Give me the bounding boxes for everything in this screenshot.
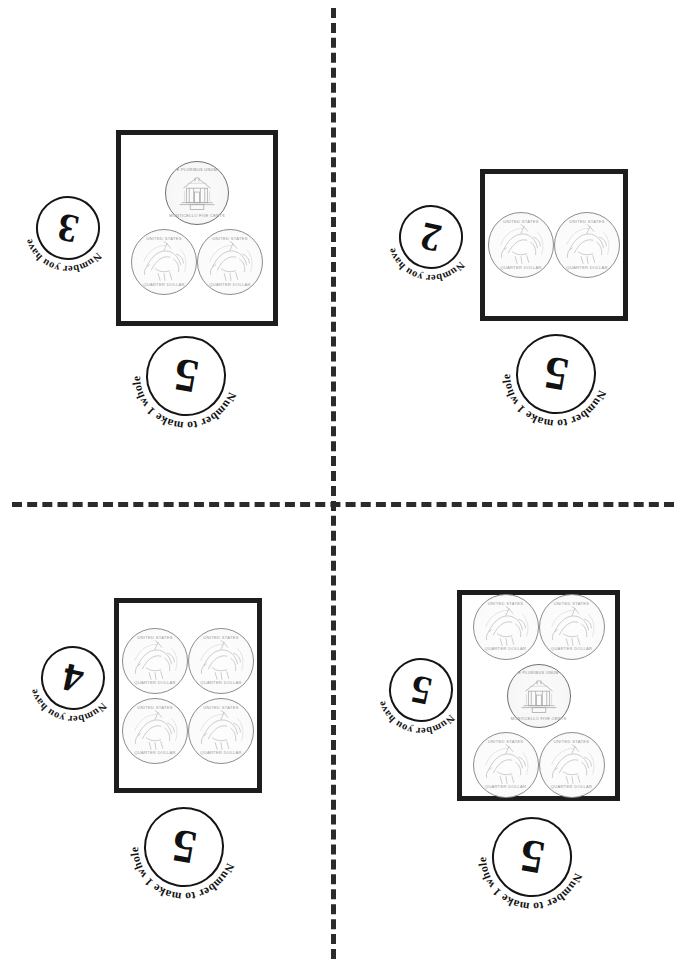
coin-row: UNITED STATESQUARTER DOLLAR UNITED STATE…: [122, 628, 254, 694]
stamp-digit: 5: [140, 330, 233, 423]
stamp-digit: 5: [510, 328, 603, 421]
coin-row: UNITED STATESQUARTER DOLLAR UNITED STATE…: [122, 698, 254, 764]
number-to-make-whole-stamp: Number to make 1 whole 5: [510, 328, 603, 421]
stamp-digit: 2: [393, 199, 469, 275]
quarter-coin: UNITED STATESQUARTER DOLLAR: [473, 594, 539, 660]
number-you-have-stamp: Number you have 5: [383, 652, 459, 728]
stamp-digit: 5: [383, 652, 459, 728]
quarter-coin: UNITED STATESQUARTER DOLLAR: [131, 229, 197, 295]
number-you-have-stamp: Number you have 4: [35, 640, 111, 716]
coin-row: E PLURIBUS UNUMMONTICELLO FIVE CENTS: [165, 161, 229, 225]
coin-box: E PLURIBUS UNUMMONTICELLO FIVE CENTS UNI…: [116, 130, 278, 326]
coin-row: UNITED STATESQUARTER DOLLAR UNITED STATE…: [473, 732, 605, 798]
number-to-make-whole-stamp: Number to make 1 whole 5: [140, 330, 233, 423]
nickel-coin: E PLURIBUS UNUMMONTICELLO FIVE CENTS: [507, 664, 571, 728]
coin-row: E PLURIBUS UNUMMONTICELLO FIVE CENTS: [507, 664, 571, 728]
coin-box: UNITED STATESQUARTER DOLLAR UNITED STATE…: [457, 590, 620, 801]
coin-row: UNITED STATESQUARTER DOLLAR UNITED STATE…: [473, 594, 605, 660]
number-you-have-stamp: Number you have 3: [30, 190, 106, 266]
quarter-coin: UNITED STATESQUARTER DOLLAR: [539, 594, 605, 660]
quarter-coin: UNITED STATESQUARTER DOLLAR: [554, 212, 620, 278]
dashed-cut-line-vertical: [331, 8, 336, 959]
quarter-coin: UNITED STATESQUARTER DOLLAR: [539, 732, 605, 798]
quarter-coin: UNITED STATESQUARTER DOLLAR: [188, 698, 254, 764]
quarter-coin: UNITED STATESQUARTER DOLLAR: [122, 698, 188, 764]
number-to-make-whole-stamp: Number to make 1 whole 5: [138, 801, 231, 894]
quarter-coin: UNITED STATESQUARTER DOLLAR: [122, 628, 188, 694]
quarter-coin: UNITED STATESQUARTER DOLLAR: [197, 229, 263, 295]
dashed-cut-line-horizontal: [12, 502, 674, 507]
stamp-digit: 5: [138, 801, 231, 894]
quarter-coin: UNITED STATESQUARTER DOLLAR: [488, 212, 554, 278]
stamp-digit: 3: [30, 190, 106, 266]
stamp-digit: 4: [35, 640, 111, 716]
coin-row: UNITED STATESQUARTER DOLLAR UNITED STATE…: [131, 229, 263, 295]
number-to-make-whole-stamp: Number to make 1 whole 5: [486, 811, 579, 904]
coin-box: UNITED STATESQUARTER DOLLAR UNITED STATE…: [114, 598, 262, 793]
coin-box: UNITED STATESQUARTER DOLLAR UNITED STATE…: [480, 169, 628, 321]
worksheet-sheet: E PLURIBUS UNUMMONTICELLO FIVE CENTS UNI…: [0, 0, 692, 967]
number-you-have-stamp: Number you have 2: [393, 199, 469, 275]
quarter-coin: UNITED STATESQUARTER DOLLAR: [473, 732, 539, 798]
nickel-coin: E PLURIBUS UNUMMONTICELLO FIVE CENTS: [165, 161, 229, 225]
quarter-coin: UNITED STATESQUARTER DOLLAR: [188, 628, 254, 694]
stamp-digit: 5: [486, 811, 579, 904]
coin-row: UNITED STATESQUARTER DOLLAR UNITED STATE…: [488, 212, 620, 278]
